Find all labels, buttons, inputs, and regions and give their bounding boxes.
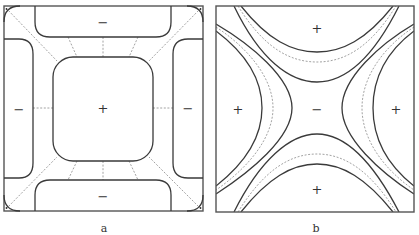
panel-b-sign-bottom: + bbox=[312, 182, 323, 197]
panel-a-corner-dot bbox=[200, 8, 202, 10]
panel-a-corner-dot bbox=[6, 8, 8, 10]
panel-b-sign-center: − bbox=[312, 102, 323, 117]
panel-a-sign-right: − bbox=[183, 101, 194, 116]
panel-b-right-outer-curve bbox=[342, 24, 414, 194]
panel-b-sign-left: + bbox=[233, 102, 244, 117]
panel-b-left-outer-curve bbox=[216, 24, 292, 194]
panel-b-sign-right: + bbox=[391, 102, 402, 117]
panel-b-bottom-outer-curve bbox=[234, 134, 399, 212]
panel-b-caption: b bbox=[312, 222, 319, 235]
panel-a-sign-bottom: − bbox=[98, 189, 109, 204]
panel-a: + − − − − a bbox=[4, 6, 203, 235]
panel-b-top-outer-curve bbox=[234, 6, 399, 82]
panel-b-sign-top: + bbox=[312, 21, 323, 36]
panel-a-sign-center: + bbox=[98, 101, 109, 116]
figure-canvas: + − − − − a bbox=[0, 0, 419, 235]
panel-a-sign-left: − bbox=[14, 102, 25, 117]
panel-b: − + + + + b bbox=[216, 6, 414, 235]
panel-a-sign-top: − bbox=[98, 15, 109, 30]
panel-a-caption: a bbox=[101, 222, 108, 235]
panel-a-corner-dot bbox=[6, 207, 8, 209]
panel-a-corner-dot bbox=[200, 207, 202, 209]
